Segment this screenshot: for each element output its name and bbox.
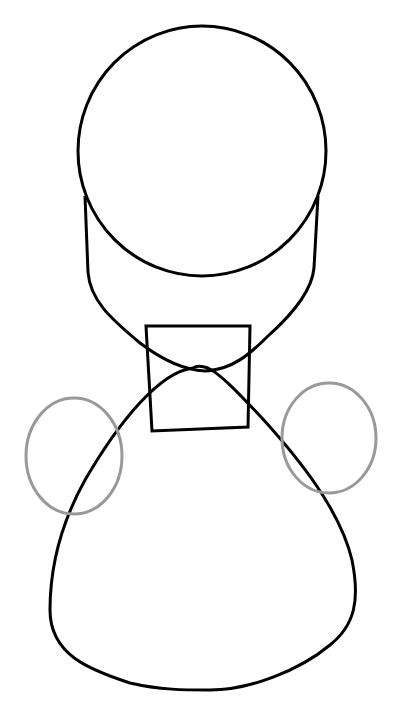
figure-drawing — [0, 0, 398, 712]
right-side-ellipse — [282, 383, 376, 493]
head-circle — [78, 26, 326, 276]
neck-box — [146, 326, 250, 431]
left-side-ellipse — [26, 398, 122, 514]
drawing-canvas — [0, 0, 398, 712]
jaw-outline — [85, 196, 318, 371]
body-outline — [50, 367, 356, 691]
